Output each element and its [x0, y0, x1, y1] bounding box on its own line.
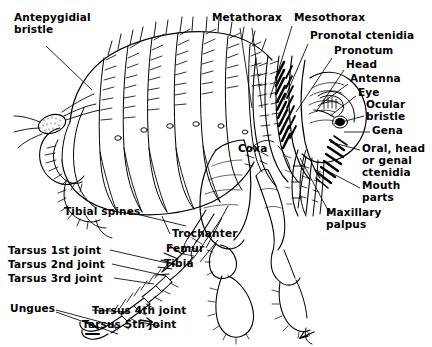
label-pronotal-ctenidia: Pronotal ctenidia — [310, 30, 414, 42]
label-coxa: Coxa — [238, 143, 267, 155]
label-maxillary-palpus: Maxillary palpus — [326, 207, 382, 231]
label-tarsus-5th-joint: Tarsus 5th joint — [82, 319, 176, 331]
label-metathorax: Metathorax — [212, 12, 282, 24]
label-ocular-bristle: Ocular bristle — [366, 99, 405, 123]
label-mouth-parts: Mouth parts — [362, 180, 400, 204]
label-antepygidial-bristle: Antepygidial bristle — [14, 12, 91, 36]
label-trochanter: Trochanter — [172, 228, 237, 240]
flea-anatomy-figure: Antepygidial bristleMetathoraxMesothorax… — [0, 0, 432, 347]
label-tibial-spines: Tibial spines — [64, 206, 140, 218]
label-gena: Gena — [372, 125, 403, 137]
label-tarsus-4th-joint: Tarsus 4th joint — [92, 305, 186, 317]
label-ungues: Ungues — [10, 303, 55, 315]
label-pronotum: Pronotum — [334, 45, 393, 57]
label-tarsus-1st-joint: Tarsus 1st joint — [8, 245, 101, 257]
label-tarsus-3rd-joint: Tarsus 3rd joint — [8, 273, 103, 285]
label-oral-head-or-genal-ctenidia: Oral, head or genal ctenidia — [362, 143, 425, 178]
label-femur: Femur — [166, 243, 204, 255]
label-tarsus-2nd-joint: Tarsus 2nd joint — [8, 259, 105, 271]
label-antenna: Antenna — [350, 73, 401, 85]
label-mesothorax: Mesothorax — [294, 12, 365, 24]
label-head: Head — [346, 59, 377, 71]
label-tibia: Tibia — [164, 258, 194, 270]
